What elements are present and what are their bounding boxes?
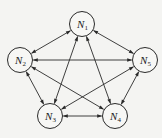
node-n3: N3 <box>38 104 63 129</box>
node-n2: N2 <box>8 48 33 73</box>
node-n1: N1 <box>70 12 95 37</box>
edge-n5-n3 <box>61 67 133 110</box>
node-subscript: 2 <box>23 60 27 68</box>
edge-n1-n3 <box>54 37 77 104</box>
edges-group <box>26 31 138 116</box>
complete-graph-diagram: N1N2N3N4N5 <box>0 0 162 138</box>
node-n4: N4 <box>103 104 128 129</box>
node-subscript: 5 <box>148 60 152 68</box>
node-subscript: 1 <box>85 24 89 32</box>
node-subscript: 3 <box>53 116 57 124</box>
edge-n1-n2 <box>32 31 71 54</box>
edge-n1-n5 <box>94 31 134 54</box>
node-subscript: 4 <box>118 116 122 124</box>
nodes-group: N1N2N3N4N5 <box>8 12 158 129</box>
edge-n5-n4 <box>121 72 138 105</box>
edge-n2-n3 <box>26 72 43 105</box>
edge-n1-n4 <box>86 37 110 104</box>
edge-n2-n4 <box>31 67 103 110</box>
node-n5: N5 <box>133 48 158 73</box>
